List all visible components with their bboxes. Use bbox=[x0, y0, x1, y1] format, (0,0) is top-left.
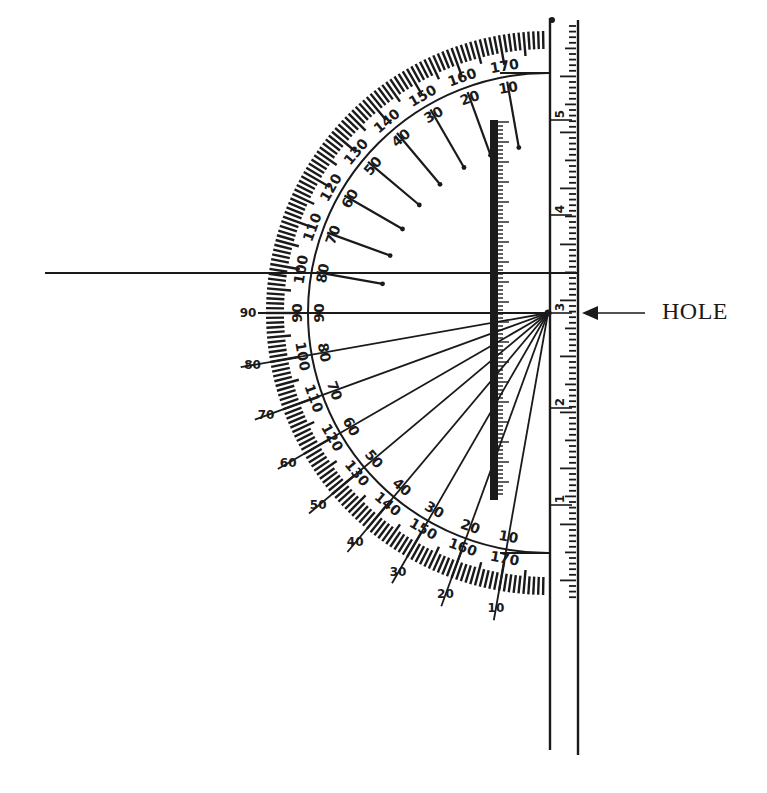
svg-text:5: 5 bbox=[553, 110, 567, 118]
svg-text:20: 20 bbox=[437, 587, 454, 601]
svg-text:160: 160 bbox=[446, 534, 479, 559]
svg-text:70: 70 bbox=[258, 408, 275, 422]
inner-scale-strip bbox=[490, 120, 509, 500]
svg-text:160: 160 bbox=[446, 65, 479, 90]
svg-text:90: 90 bbox=[289, 303, 305, 323]
svg-text:2: 2 bbox=[553, 398, 567, 406]
svg-text:10: 10 bbox=[498, 527, 520, 546]
svg-text:40: 40 bbox=[347, 535, 364, 549]
svg-text:70: 70 bbox=[324, 379, 346, 403]
svg-text:80: 80 bbox=[315, 341, 334, 363]
svg-text:80: 80 bbox=[244, 358, 261, 372]
svg-text:20: 20 bbox=[458, 515, 482, 537]
svg-text:3: 3 bbox=[553, 303, 567, 311]
svg-text:4: 4 bbox=[553, 205, 567, 213]
svg-text:30: 30 bbox=[390, 565, 407, 579]
svg-text:110: 110 bbox=[301, 382, 326, 415]
svg-text:60: 60 bbox=[280, 456, 297, 470]
svg-text:60: 60 bbox=[340, 414, 364, 439]
svg-text:100: 100 bbox=[290, 253, 311, 285]
svg-text:10: 10 bbox=[497, 78, 519, 97]
svg-text:30: 30 bbox=[422, 498, 447, 522]
svg-text:50: 50 bbox=[310, 498, 327, 512]
svg-text:40: 40 bbox=[388, 125, 413, 150]
svg-text:90: 90 bbox=[311, 303, 327, 323]
hole-label: HOLE bbox=[662, 298, 728, 325]
protractor-diagram: 1001101201301401501601708070605040302010… bbox=[0, 0, 767, 793]
svg-text:110: 110 bbox=[300, 210, 325, 243]
svg-text:1: 1 bbox=[553, 495, 567, 503]
svg-text:10: 10 bbox=[488, 601, 505, 615]
svg-text:90: 90 bbox=[240, 306, 257, 320]
vertical-ruler: 54321 bbox=[500, 17, 578, 755]
